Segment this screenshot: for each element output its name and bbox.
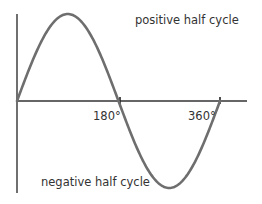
tick-180-label: 180° bbox=[93, 109, 121, 123]
positive-half-cycle-label: positive half cycle bbox=[135, 13, 239, 27]
sine-wave-diagram: positive half cycle 180° 360° negative h… bbox=[0, 0, 262, 204]
tick-360-label: 360° bbox=[188, 109, 216, 123]
negative-half-cycle-label: negative half cycle bbox=[41, 175, 150, 189]
